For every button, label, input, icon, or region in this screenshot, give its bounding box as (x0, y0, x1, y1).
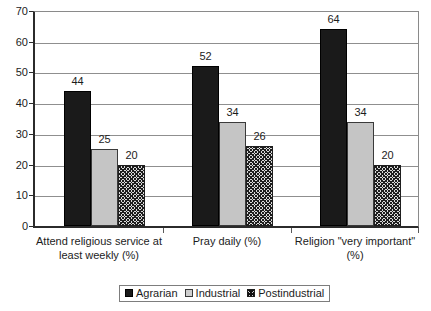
bar-value: 64 (327, 14, 339, 25)
y-tick-label: 0 (22, 221, 28, 232)
bar-value: 20 (125, 150, 137, 161)
bar-value: 34 (226, 107, 238, 118)
x-tick-mark (418, 228, 419, 233)
bar-agrarian[interactable] (320, 29, 347, 226)
bar-slot-postindustrial[interactable]: 26 (246, 11, 273, 226)
bar-slot-postindustrial[interactable]: 20 (374, 11, 401, 226)
legend-label: Agrarian (136, 288, 178, 299)
bar-group: 52 34 26 (163, 11, 291, 226)
bar-postindustrial[interactable] (118, 165, 145, 226)
bar-agrarian[interactable] (64, 91, 91, 226)
x-category-line: Pray daily (%) (163, 234, 291, 248)
y-tick-label: 70 (16, 6, 28, 17)
bar-slot-industrial[interactable]: 34 (347, 11, 374, 226)
bar-slot-agrarian[interactable]: 64 (320, 11, 347, 226)
x-category-label-0: Attend religious service at least weekly… (35, 234, 163, 262)
bar-value: 34 (354, 107, 366, 118)
bar-slot-postindustrial[interactable]: 20 (118, 11, 145, 226)
y-tick-label: 30 (16, 129, 28, 140)
bar-value: 26 (253, 131, 265, 142)
legend-label: Postindustrial (258, 288, 324, 299)
bars-layer: 44 25 20 52 34 26 (35, 11, 419, 226)
bar-value: 20 (381, 150, 393, 161)
x-category-label-2: Religion "very important" (%) (291, 234, 419, 262)
x-axis: Attend religious service at least weekly… (35, 234, 419, 278)
y-tick-label: 60 (16, 37, 28, 48)
y-axis: 70 60 50 40 30 20 10 0 (0, 11, 28, 228)
y-tick-label: 50 (16, 67, 28, 78)
x-category-line: (%) (291, 248, 419, 262)
bar-value: 52 (199, 51, 211, 62)
x-category-line: least weekly (%) (35, 248, 163, 262)
bar-slot-industrial[interactable]: 34 (219, 11, 246, 226)
legend-swatch-icon (125, 289, 133, 297)
y-tick-label: 20 (16, 160, 28, 171)
bar-value: 25 (98, 134, 110, 145)
x-category-line: Religion "very important" (291, 234, 419, 248)
bar-industrial[interactable] (219, 122, 246, 226)
bar-industrial[interactable] (91, 149, 118, 226)
bar-slot-agrarian[interactable]: 44 (64, 11, 91, 226)
legend-item-industrial[interactable]: Industrial (185, 288, 241, 299)
x-tick-mark (163, 228, 164, 233)
bar-group: 64 34 20 (291, 11, 419, 226)
x-category-line: Attend religious service at (35, 234, 163, 248)
x-tick-mark (291, 228, 292, 233)
y-tick-label: 40 (16, 98, 28, 109)
legend-item-postindustrial[interactable]: Postindustrial (247, 288, 324, 299)
x-category-label-1: Pray daily (%) (163, 234, 291, 248)
bar-industrial[interactable] (347, 122, 374, 226)
bar-value: 44 (71, 76, 83, 87)
bar-chart: 70 60 50 40 30 20 10 0 4 (0, 0, 431, 311)
bar-slot-industrial[interactable]: 25 (91, 11, 118, 226)
bar-slot-agrarian[interactable]: 52 (192, 11, 219, 226)
bar-postindustrial[interactable] (374, 165, 401, 226)
bar-group: 44 25 20 (35, 11, 163, 226)
legend-swatch-icon (185, 289, 193, 297)
bar-postindustrial[interactable] (246, 146, 273, 226)
y-tick-label: 10 (16, 190, 28, 201)
bar-agrarian[interactable] (192, 66, 219, 226)
legend-item-agrarian[interactable]: Agrarian (125, 288, 178, 299)
legend-label: Industrial (196, 288, 241, 299)
legend-swatch-icon (247, 289, 255, 297)
legend: Agrarian Industrial Postindustrial (119, 285, 330, 302)
